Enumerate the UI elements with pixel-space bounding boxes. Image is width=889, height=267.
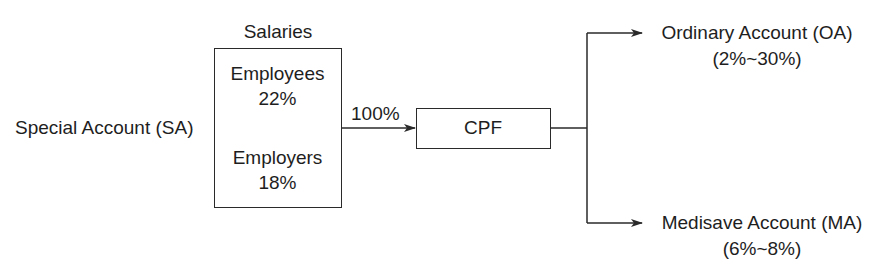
ordinary-account-range: (2%~30%) (646, 48, 868, 70)
salaries-box: Employees 22% Employers 18% (214, 48, 342, 208)
employees-percent: 22% (215, 88, 340, 110)
employees-label: Employees (215, 63, 340, 85)
medisave-account-range: (6%~8%) (646, 238, 878, 260)
flow-percent-label: 100% (351, 103, 400, 125)
special-account-label: Special Account (SA) (15, 117, 193, 139)
employers-label: Employers (215, 147, 340, 169)
cpf-label: CPF (417, 117, 549, 139)
ordinary-account-label: Ordinary Account (OA) (646, 22, 868, 44)
employers-percent: 18% (215, 172, 340, 194)
salaries-title: Salaries (214, 21, 342, 43)
medisave-account-label: Medisave Account (MA) (646, 212, 878, 234)
cpf-box: CPF (416, 108, 551, 149)
